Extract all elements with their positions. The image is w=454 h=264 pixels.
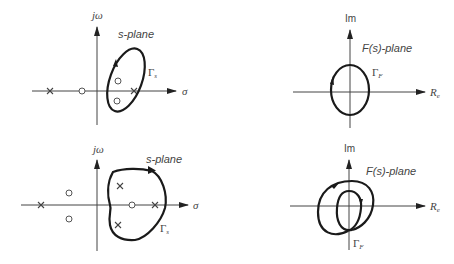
panel-top-right-f-plane: Im Re F(s)-plane ΓF	[293, 13, 440, 128]
panel-bottom-left-s-plane: jω σ s-plane Γs	[21, 143, 199, 251]
zero-marker	[66, 190, 72, 196]
jw-axis-label: jω	[91, 143, 104, 155]
im-axis-label: Im	[345, 13, 356, 24]
plane-label: F(s)-plane	[366, 165, 416, 177]
re-axis-label: Re	[429, 86, 440, 100]
gamma-s-contour	[100, 44, 153, 117]
zero-marker	[114, 98, 120, 104]
nyquist-mapping-diagram: jω σ s-plane Γs Im Re F(s)-plane ΓF	[0, 0, 454, 264]
re-axis-label: Re	[429, 200, 440, 214]
plane-label: F(s)-plane	[362, 42, 412, 54]
sigma-axis-label: σ	[182, 85, 188, 97]
contour-label: Γs	[148, 66, 157, 80]
zero-marker	[79, 88, 85, 94]
sigma-axis-label: σ	[193, 199, 199, 211]
panel-bottom-right-f-plane: Im Re F(s)-plane ΓF	[290, 143, 440, 251]
plane-label: s-plane	[146, 153, 182, 165]
jw-axis-label: jω	[90, 9, 103, 21]
zero-marker	[66, 216, 72, 222]
pole-marker	[117, 183, 123, 189]
gamma-f-outer-loop	[318, 181, 373, 234]
im-axis-label: Im	[344, 143, 355, 154]
pole-marker	[115, 222, 121, 228]
zero-marker	[115, 78, 121, 84]
zero-marker	[129, 202, 135, 208]
contour-label: ΓF	[353, 237, 364, 251]
direction-arrow-icon	[359, 199, 363, 206]
gamma-s-contour	[108, 169, 166, 240]
contour-label: Γs	[160, 222, 169, 236]
plane-label: s-plane	[118, 28, 154, 40]
panel-top-left-s-plane: jω σ s-plane Γs	[32, 9, 188, 125]
contour-label: ΓF	[372, 66, 383, 80]
